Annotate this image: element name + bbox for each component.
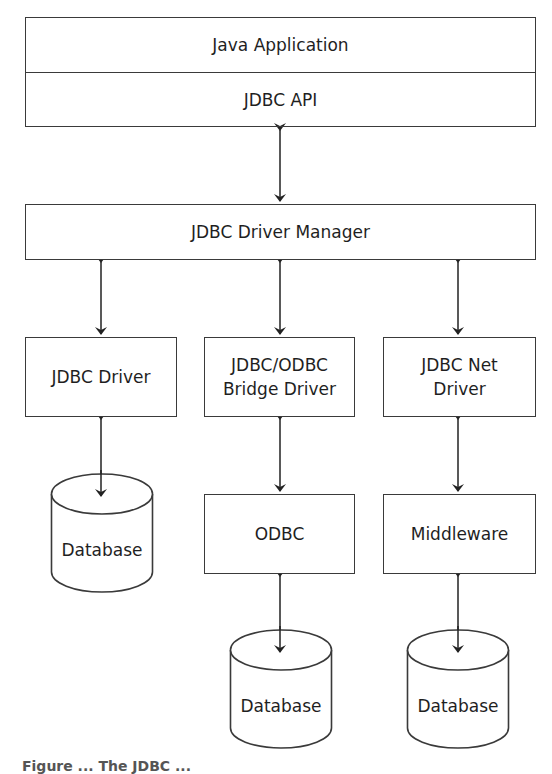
database-label: Database	[406, 696, 510, 716]
net-driver-box: JDBC Net Driver	[383, 337, 536, 417]
driver-label-line2: Driver	[433, 377, 485, 401]
database-icon	[50, 472, 154, 594]
database-cylinder-2: Database	[229, 628, 333, 750]
figure-caption: Figure ... The JDBC ...	[22, 758, 191, 774]
middleware-label: Middleware	[411, 522, 509, 546]
database-label: Database	[229, 696, 333, 716]
driver-label-line1: JDBC Driver	[51, 365, 150, 389]
jdbc-driver-box: JDBC Driver	[25, 337, 177, 417]
driver-label-line2: Bridge Driver	[223, 377, 336, 401]
driver-manager-label: JDBC Driver Manager	[191, 220, 370, 244]
jdbc-api-layer: JDBC API	[26, 72, 535, 126]
database-cylinder-1: Database	[50, 472, 154, 594]
database-cylinder-3: Database	[406, 628, 510, 750]
database-label: Database	[50, 540, 154, 560]
odbc-box: ODBC	[204, 494, 355, 574]
driver-manager-box: JDBC Driver Manager	[25, 204, 536, 260]
bridge-driver-box: JDBC/ODBC Bridge Driver	[204, 337, 355, 417]
driver-label-line1: JDBC Net	[421, 353, 498, 377]
odbc-label: ODBC	[255, 522, 305, 546]
java-application-layer: Java Application	[26, 18, 535, 72]
middleware-box: Middleware	[383, 494, 536, 574]
java-app-stack: Java Application JDBC API	[25, 17, 536, 127]
driver-label-line1: JDBC/ODBC	[231, 353, 328, 377]
database-icon	[406, 628, 510, 750]
database-icon	[229, 628, 333, 750]
